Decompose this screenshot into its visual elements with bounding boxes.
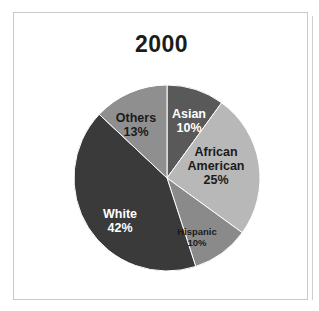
adjacent-panel-edge: [312, 16, 319, 300]
pie-chart-svg: [74, 85, 260, 271]
chart-title: 2000: [14, 33, 309, 56]
pie-chart: Asian 10% African American 25% Hispanic …: [74, 85, 260, 271]
chart-frame: 2000 Asian 10% African American 25% Hisp…: [13, 12, 308, 300]
